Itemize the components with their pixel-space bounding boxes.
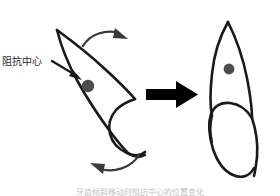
transform-arrow — [146, 81, 198, 108]
figure-caption: 牙齿倾斜移动时阻抗中心的位置变化 — [0, 188, 280, 196]
left-tooth-crown-outline — [109, 99, 145, 155]
left-tooth-root-outline — [57, 30, 129, 154]
left-center-of-resistance-dot — [82, 80, 94, 92]
center-of-resistance-label: 阻抗中心 — [2, 56, 42, 68]
figure-container: 阻抗中心 牙齿倾斜移动时阻抗中心的位置变化 — [0, 0, 280, 196]
center-of-resistance-pointer-arrow — [52, 61, 82, 80]
top-rotation-arrow — [83, 28, 128, 46]
right-tooth-crown-base-contour — [211, 116, 213, 142]
right-center-of-resistance-dot — [224, 64, 235, 75]
left-tooth-group — [52, 28, 145, 174]
bottom-rotation-arrow — [90, 155, 139, 174]
right-tooth-crown-outline — [209, 103, 254, 177]
right-tooth-group — [209, 22, 257, 177]
right-tooth-lateral-edge — [252, 118, 257, 176]
tooth-movement-diagram — [0, 0, 280, 196]
